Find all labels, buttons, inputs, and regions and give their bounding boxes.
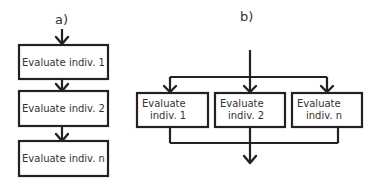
box-evaluate-1-text: Evaluate indiv. 1 <box>22 57 105 68</box>
box-evaluate-n-text: Evaluate indiv. n <box>22 153 105 164</box>
box-evaluate-2-text: Evaluate indiv. 2 <box>22 103 105 114</box>
panel-b-label: b) <box>240 9 253 24</box>
box-parallel-n-line1: Evaluate <box>297 98 341 109</box>
box-parallel-2-line1: Evaluate <box>220 98 264 109</box>
panel-a: a) Evaluate indiv. 1 Evaluate indiv. 2 E… <box>19 12 108 176</box>
box-parallel-2-line2: indiv. 2 <box>228 110 264 121</box>
box-parallel-1-line2: indiv. 1 <box>150 110 186 121</box>
box-parallel-n-line2: indiv. n <box>306 110 342 121</box>
panel-b: b) Evaluate indiv. 1 Evaluate indiv. 2 E… <box>137 9 362 163</box>
flow-diagram: a) Evaluate indiv. 1 Evaluate indiv. 2 E… <box>0 0 381 184</box>
box-parallel-1-line1: Evaluate <box>142 98 186 109</box>
panel-a-label: a) <box>55 12 68 27</box>
